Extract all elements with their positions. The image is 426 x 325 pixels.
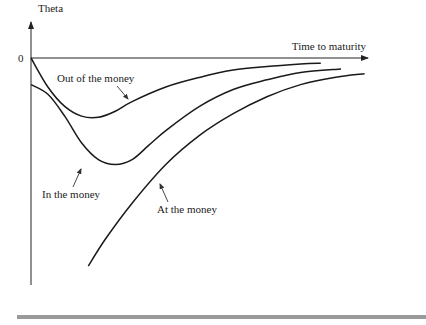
curve-out-of-the-money (31, 58, 321, 118)
annotation-at-the-money: At the money (157, 203, 217, 215)
annotation-in-the-money: In the money (42, 188, 101, 200)
page-divider-bar (17, 315, 426, 319)
y-axis-label: Theta (38, 2, 63, 14)
annotation-arrow-out-of-the-money (117, 86, 128, 99)
annotation-arrow-at-the-money (160, 184, 168, 202)
annotation-arrow-in-the-money (73, 169, 81, 187)
annotation-out-of-the-money: Out of the money (57, 72, 135, 84)
y-zero-tick-label: 0 (18, 52, 24, 64)
x-axis-label: Time to maturity (292, 40, 367, 52)
theta-chart: Theta Time to maturity 0 Out of the mone… (0, 0, 426, 325)
